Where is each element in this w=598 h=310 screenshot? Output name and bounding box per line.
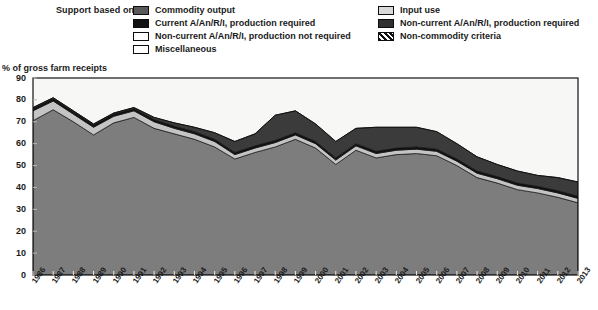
y-axis-tick-label: 70 [4,117,26,126]
input-use-swatch [378,6,394,15]
y-axis-tick-label: 20 [4,227,26,236]
legend-item-non-commodity-criteria: Non-commodity criteria [378,30,579,42]
chart-page: Support based on: Commodity output Curre… [0,0,598,310]
current-production-required-swatch [133,19,149,28]
legend-item-miscellaneous: Miscellaneous [133,43,351,55]
non-commodity-criteria-swatch [378,32,394,41]
legend-label: Current A/An/R/I, production required [155,18,315,28]
y-axis-tick-label: 40 [4,183,26,192]
legend-label: Non-current A/An/R/I, production require… [400,18,579,28]
y-axis-title: % of gross farm receipts [2,63,107,73]
y-axis-tick-label: 50 [4,161,26,170]
miscellaneous-swatch [133,45,149,54]
y-axis-tick-label: 10 [4,249,26,258]
y-axis-tick-label: 90 [4,74,26,83]
legend-item-current-production-required: Current A/An/R/I, production required [133,17,351,29]
legend-label: Non-current A/An/R/I, production not req… [155,31,351,41]
legend-item-noncurrent-production-not-required: Non-current A/An/R/I, production not req… [133,30,351,42]
chart-legend: Support based on: Commodity output Curre… [0,0,598,58]
y-axis-tick-label: 0 [4,271,26,280]
legend-column-left: Commodity output Current A/An/R/I, produ… [133,4,351,56]
legend-label: Miscellaneous [155,44,217,54]
legend-title: Support based on: [56,5,137,15]
y-axis-tick-label: 60 [4,139,26,148]
legend-label: Commodity output [155,5,235,15]
y-axis-tick-label: 80 [4,95,26,104]
legend-item-noncurrent-production-required: Non-current A/An/R/I, production require… [378,17,579,29]
y-axis-tick-label: 30 [4,205,26,214]
legend-column-right: Input use Non-current A/An/R/I, producti… [378,4,579,43]
legend-label: Input use [400,5,440,15]
legend-label: Non-commodity criteria [400,31,501,41]
commodity-output-swatch [133,6,149,15]
noncurrent-production-not-required-swatch [133,32,149,41]
legend-item-input-use: Input use [378,4,579,16]
stacked-area-chart: 0102030405060708090 19861987198819891990… [0,74,598,310]
legend-item-commodity-output: Commodity output [133,4,351,16]
noncurrent-production-required-swatch [378,19,394,28]
